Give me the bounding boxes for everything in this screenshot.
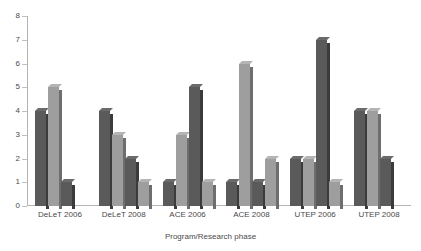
bar <box>316 40 327 206</box>
y-axis-tick <box>22 111 27 112</box>
bar <box>226 182 237 206</box>
bar-slot <box>61 16 72 206</box>
bar-group <box>156 16 220 206</box>
bar <box>189 87 200 206</box>
y-axis-tick <box>22 182 27 183</box>
bar <box>138 182 149 206</box>
x-axis-tick-label: ACE 2008 <box>219 210 283 219</box>
x-axis-tick-label: DeLeT 2008 <box>92 210 156 219</box>
bar-group <box>347 16 411 206</box>
bar-slot <box>290 16 301 206</box>
y-axis-tick <box>22 16 27 17</box>
bar-slot <box>163 16 174 206</box>
bar-chart: 012345678 DeLeT 2006DeLeT 2008ACE 2006AC… <box>0 0 421 251</box>
x-axis-tick-label: UTEP 2008 <box>347 210 411 219</box>
bar-slot <box>265 16 276 206</box>
y-axis-tick <box>22 135 27 136</box>
bar-slot <box>380 16 391 206</box>
y-axis-tick-label: 6 <box>4 60 20 68</box>
bar-slot <box>202 16 213 206</box>
bar-group <box>28 16 92 206</box>
x-axis-title: Program/Research phase <box>0 232 421 241</box>
bar-groups <box>28 16 411 206</box>
bar-slot <box>48 16 59 206</box>
y-axis-tick-label: 0 <box>4 202 20 210</box>
bar-slot <box>176 16 187 206</box>
y-axis-tick-label: 5 <box>4 83 20 91</box>
bar <box>61 182 72 206</box>
bar <box>35 111 46 206</box>
bar-group <box>283 16 347 206</box>
y-axis-tick-label: 1 <box>4 178 20 186</box>
bar <box>354 111 365 206</box>
y-axis-tick-label: 7 <box>4 36 20 44</box>
bar-slot <box>393 16 404 206</box>
bar <box>303 159 314 207</box>
bar <box>125 159 136 207</box>
bar <box>112 135 123 206</box>
bar-slot <box>367 16 378 206</box>
bar <box>290 159 301 207</box>
bar-slot <box>99 16 110 206</box>
bar-slot <box>35 16 46 206</box>
bar-slot <box>303 16 314 206</box>
bar <box>163 182 174 206</box>
bar <box>265 159 276 207</box>
y-axis-tick <box>22 40 27 41</box>
y-axis-tick-label: 3 <box>4 131 20 139</box>
y-axis-tick <box>22 64 27 65</box>
bar-slot <box>329 16 340 206</box>
bar <box>202 182 213 206</box>
bar-slot <box>252 16 263 206</box>
bar-slot <box>316 16 327 206</box>
bar-slot <box>138 16 149 206</box>
y-axis-tick-label: 2 <box>4 155 20 163</box>
x-axis-tick-label: ACE 2006 <box>156 210 220 219</box>
bar-slot <box>125 16 136 206</box>
bar <box>367 111 378 206</box>
bar-slot <box>112 16 123 206</box>
bar <box>380 159 391 207</box>
x-axis-tick-label: DeLeT 2006 <box>28 210 92 219</box>
y-axis-tick-label: 8 <box>4 12 20 20</box>
x-axis-labels: DeLeT 2006DeLeT 2008ACE 2006ACE 2008UTEP… <box>28 210 411 219</box>
bar-slot <box>226 16 237 206</box>
y-axis-tick <box>22 87 27 88</box>
y-axis-tick-label: 4 <box>4 107 20 115</box>
bar <box>48 87 59 206</box>
bar-group <box>92 16 156 206</box>
y-axis-tick <box>22 206 27 207</box>
bar-slot <box>239 16 250 206</box>
x-axis-tick-label: UTEP 2006 <box>283 210 347 219</box>
bar <box>176 135 187 206</box>
bar-slot <box>354 16 365 206</box>
bar-slot <box>74 16 85 206</box>
bar <box>99 111 110 206</box>
bar <box>239 64 250 207</box>
bar-slot <box>189 16 200 206</box>
y-axis-tick <box>22 159 27 160</box>
bar <box>329 182 340 206</box>
bar <box>252 182 263 206</box>
bar-group <box>219 16 283 206</box>
